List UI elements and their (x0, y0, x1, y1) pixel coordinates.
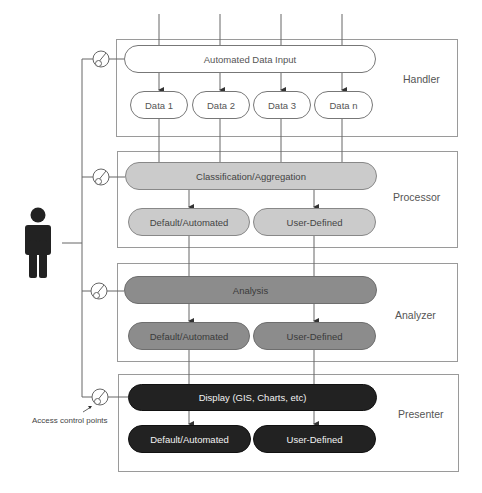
presenter-user-defined-node: User-Defined (253, 425, 376, 453)
processor-label: Processor (393, 191, 440, 203)
analyzer-user-defined-node: User-Defined (253, 322, 376, 350)
handler-label: Handler (403, 73, 440, 85)
presenter-label: Presenter (398, 408, 444, 420)
access-control-caption: Access control points (32, 416, 108, 425)
data-node: Data n (314, 91, 373, 119)
data-node: Data 1 (130, 91, 188, 119)
presenter-default-automated-node: Default/Automated (128, 425, 251, 453)
processor-user-defined-node: User-Defined (253, 208, 376, 236)
classification-aggregation-node: Classification/Aggregation (125, 162, 377, 190)
display-node: Display (GIS, Charts, etc) (128, 384, 377, 411)
architecture-diagram: Automated Data Input Data 1 Data 2 Data … (0, 0, 482, 493)
analyzer-label: Analyzer (395, 309, 436, 321)
processor-default-automated-node: Default/Automated (128, 208, 250, 236)
analysis-node: Analysis (124, 276, 377, 304)
data-node: Data 3 (253, 91, 311, 119)
automated-data-input-node: Automated Data Input (124, 45, 376, 73)
data-node: Data 2 (192, 91, 250, 119)
analyzer-default-automated-node: Default/Automated (128, 322, 250, 350)
